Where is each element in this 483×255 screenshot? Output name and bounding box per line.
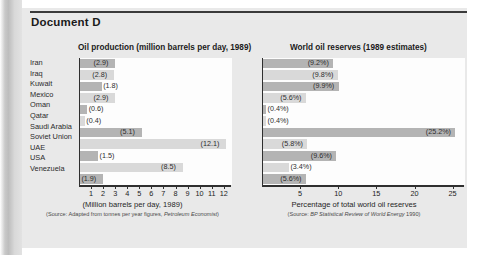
axis-tick-label: 8 [173,189,177,198]
bar-value-label: (5.1) [120,127,135,138]
bar-value-label: (5.8%) [282,139,303,150]
bar-value-label: (2.9) [94,93,109,104]
page-gutter-inner [14,0,22,255]
bar-value-label: (9.6%) [311,151,332,162]
bar [263,116,266,126]
category-label: Kuwait [30,79,78,90]
bar-value-label: (3.4%) [290,162,311,173]
bar-value-label: (0.6) [89,104,104,115]
bar-value-label: (2.9) [94,58,109,69]
bar-value-label: (25.2%) [426,127,451,138]
category-label: Oman [30,100,78,111]
bar [80,105,87,115]
axis-tick-label: 1 [89,189,93,198]
category-label: USA [30,153,78,164]
bar [80,151,98,161]
chart-title-world-oil-reserves: World oil reserves (1989 estimates) [290,43,427,52]
bar-row: (5.8%) [263,139,465,151]
bar-row: (9.9%) [263,81,465,93]
bar-row: (9.8%) [263,70,465,82]
bar [263,163,289,173]
bar-value-label: (12.1) [201,139,220,150]
axis-tick-label: 7 [161,189,165,198]
bar-row: (2.9) [80,58,232,70]
plot-area-left: (2.9)(2.8)(1.8)(2.9)(0.6)(0.4)(5.1)(12.1… [79,58,232,185]
bar-row: (8.5) [80,162,232,174]
category-label: UAE [30,143,78,154]
category-labels-left: IranIraqKuwaitMexicoOmanQatarSaudi Arabi… [30,58,78,175]
bar-value-label: (9.2%) [308,58,329,69]
axis-tick-label: 20 [410,189,418,198]
bar-row: (0.4%) [263,104,465,116]
bar-row: (9.2%) [263,58,465,70]
bar-row: (9.6%) [263,150,465,162]
axis-tick-label: 5 [137,189,141,198]
chart-world-oil-reserves: (9.2%)(9.8%)(9.9%)(5.6%)(0.4%)(0.4%)(25.… [240,58,468,198]
bar-value-label: (0.4%) [268,104,289,115]
bar-row: (0.6) [80,104,232,116]
bar-value-label: (5.6%) [280,93,301,104]
axis-tick-label: 10 [196,189,204,198]
bar-value-label: (1.8) [103,81,118,92]
bar-row: (3.4%) [263,162,465,174]
bar-value-label: (1.5) [100,151,115,162]
bar-row: (1.8) [80,81,232,93]
axis-tick-label: 10 [334,189,342,198]
axis-tick-label: 6 [149,189,153,198]
page-gutter-shadow [0,0,14,255]
axis-tick-label: 9 [186,189,190,198]
page-title: Document D [31,16,101,28]
axis-tick-label: 3 [113,189,117,198]
category-label: Saudi Arabia [30,122,78,133]
axis-tick-label: 12 [220,189,228,198]
bar-value-label: (8.5) [161,162,176,173]
bar-row: (1.9) [80,173,232,185]
category-label: Iraq [30,69,78,80]
bar-row: (5.6%) [263,173,465,185]
bar-value-label: (9.8%) [312,70,333,81]
bar [80,116,85,126]
title-divider-rule [30,11,467,13]
plot-area-right: (9.2%)(9.8%)(9.9%)(5.6%)(0.4%)(0.4%)(25.… [262,58,465,185]
chart-oil-production: IranIraqKuwaitMexicoOmanQatarSaudi Arabi… [30,58,235,198]
bar-value-label: (1.9) [81,174,96,185]
bar-value-label: (2.8) [92,70,107,81]
bar-row: (0.4) [80,116,232,128]
x-axis-left [79,185,231,187]
axis-tick-label: 2 [101,189,105,198]
bar-row: (25.2%) [263,127,465,139]
category-label: Venezuela [30,164,78,175]
axis-tick-label: 4 [125,189,129,198]
bar-row: (5.1) [80,127,232,139]
category-label: Iran [30,58,78,69]
bar-row: (2.9) [80,93,232,105]
document-page: Document D Oil production (million barre… [0,0,483,255]
bar-value-label: (0.4%) [268,116,289,127]
category-label: Soviet Union [30,132,78,143]
bar-value-label: (5.6%) [280,174,301,185]
bar [263,105,266,115]
bar-row: (1.5) [80,150,232,162]
axis-tick-label: 15 [372,189,380,198]
bar-value-label: (0.4) [86,116,101,127]
category-label: Qatar [30,111,78,122]
bar [80,82,102,92]
bar-row: (5.6%) [263,93,465,105]
chart-title-oil-production: Oil production (million barrels per day,… [78,43,251,52]
bar-value-label: (9.9%) [313,81,334,92]
axis-tick-label: 5 [298,189,302,198]
x-axis-right [262,185,464,187]
axis-tick-label: 25 [449,189,457,198]
bar-row: (12.1) [80,139,232,151]
axis-tick-label: 11 [208,189,216,198]
bar-row: (0.4%) [263,116,465,128]
category-label: Mexico [30,90,78,101]
bar-row: (2.8) [80,70,232,82]
